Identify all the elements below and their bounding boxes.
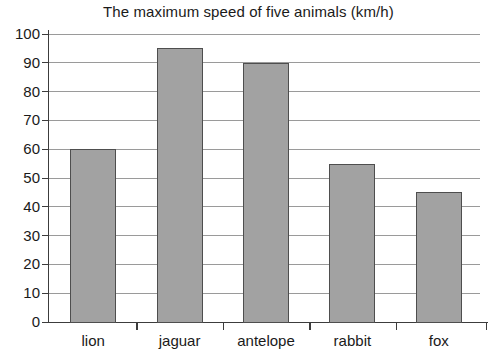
x-tick-mark: [136, 323, 137, 330]
bar: [243, 63, 289, 323]
y-tick-label: 50: [0, 170, 40, 185]
x-tick-mark: [396, 323, 397, 330]
y-tick-mark: [42, 264, 49, 265]
y-tick-label: 70: [0, 112, 40, 127]
x-tick-mark: [486, 323, 487, 330]
x-tick-mark: [309, 323, 310, 330]
y-tick-label: 60: [0, 141, 40, 156]
y-tick-mark: [42, 149, 49, 150]
y-tick-mark: [42, 91, 49, 92]
bar: [416, 192, 462, 323]
y-tick-label: 20: [0, 256, 40, 271]
y-tick-label: 100: [0, 26, 40, 41]
bar: [70, 149, 116, 323]
x-category-label: fox: [396, 332, 482, 350]
bar: [329, 164, 375, 323]
chart-title: The maximum speed of five animals (km/h): [0, 2, 497, 22]
y-tick-label: 80: [0, 84, 40, 99]
y-tick-label: 90: [0, 55, 40, 70]
y-tick-mark: [42, 120, 49, 121]
y-axis-line: [48, 30, 49, 323]
y-tick-label: 40: [0, 199, 40, 214]
y-tick-mark: [42, 322, 49, 323]
x-category-label: lion: [50, 332, 136, 350]
x-category-label: jaguar: [136, 332, 222, 350]
bar: [157, 48, 203, 323]
x-category-label: antelope: [223, 332, 309, 350]
y-tick-mark: [42, 206, 49, 207]
y-tick-label: 10: [0, 285, 40, 300]
y-tick-mark: [42, 178, 49, 179]
y-tick-mark: [42, 62, 49, 63]
x-tick-mark: [223, 323, 224, 330]
x-category-label: rabbit: [309, 332, 395, 350]
y-tick-mark: [42, 235, 49, 236]
y-tick-label: 0: [0, 314, 40, 329]
y-tick-mark: [42, 293, 49, 294]
bar-chart: The maximum speed of five animals (km/h)…: [0, 0, 497, 361]
y-tick-label: 30: [0, 228, 40, 243]
gridline: [48, 34, 480, 35]
y-tick-mark: [42, 34, 49, 35]
